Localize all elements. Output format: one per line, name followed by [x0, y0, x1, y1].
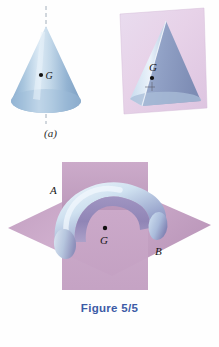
- centroid-label-g: G: [100, 234, 108, 246]
- halftorus-svg: G A B: [0, 150, 219, 300]
- panel-cone-with-plane: G (b): [108, 2, 219, 150]
- figure-container: G (a): [0, 0, 219, 347]
- centroid-dot: [39, 73, 43, 77]
- plane-label-a: A: [49, 184, 57, 196]
- cone-base-rim-shade: [11, 89, 81, 113]
- panel-halftorus-with-planes: G A B (c): [0, 150, 219, 300]
- cone-with-plane-svg: G: [108, 2, 219, 150]
- panel-sublabel-a: (a): [44, 127, 57, 139]
- centroid-label-g: G: [46, 70, 53, 81]
- centroid-dot: [150, 76, 154, 80]
- figure-caption: Figure 5/5: [0, 302, 219, 314]
- plane-label-b: B: [155, 245, 162, 257]
- centroid-dot: [103, 226, 107, 230]
- centroid-label-g: G: [149, 61, 157, 73]
- panel-cone-plain: G (a): [0, 2, 108, 150]
